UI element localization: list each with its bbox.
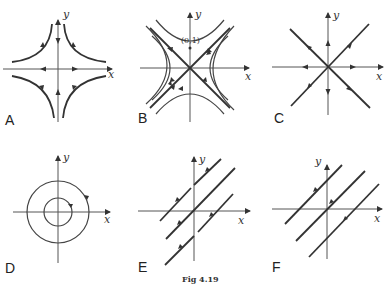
y-axis-label: y (194, 8, 202, 21)
y-axis-label: y (332, 9, 340, 22)
y-axis-label: y (62, 8, 70, 21)
panel-f: y x F (272, 155, 382, 275)
x-axis-label: x (374, 212, 381, 225)
trajectory (291, 24, 369, 106)
panel-a: y x A (3, 8, 115, 128)
trajectory (290, 29, 370, 108)
arrow-icon (40, 67, 46, 72)
trajectory (12, 24, 52, 62)
x-axis-label: x (238, 214, 245, 227)
panel-b: (0,1) y x B (138, 8, 252, 126)
x-axis-label: x (104, 213, 111, 226)
y-axis-label: y (62, 151, 70, 164)
panel-label: F (272, 259, 281, 275)
arrow-icon (178, 86, 183, 91)
point-marker (189, 47, 192, 50)
arrow-icon (350, 65, 356, 70)
trajectory (12, 76, 54, 118)
figure-caption: Fig 4.19 (182, 274, 219, 284)
arrow-icon (302, 65, 308, 70)
y-axis-label: y (198, 153, 206, 166)
trajectory (64, 24, 106, 62)
arrow-icon (56, 38, 61, 44)
x-axis-label: x (108, 68, 115, 81)
arrow-icon (167, 47, 173, 52)
arrow-icon (72, 67, 78, 72)
trajectory (146, 26, 167, 104)
trajectory (296, 171, 365, 241)
arrow-icon (40, 42, 45, 47)
trajectory (63, 76, 106, 118)
arrow-icon (68, 204, 73, 208)
panel-e: y x E Fig 4.19 (138, 153, 250, 284)
trajectory (165, 236, 194, 265)
x-axis-label: x (245, 70, 252, 83)
panel-label: A (5, 112, 15, 128)
panel-label: C (274, 110, 284, 126)
panel-c: y x C (272, 9, 383, 126)
panel-label: B (138, 110, 147, 126)
phase-portraits-figure: y x A (0,1) y x B (0, 0, 384, 286)
panel-d: y x D (5, 151, 111, 276)
point-label: (0,1) (181, 36, 200, 45)
panel-label: E (138, 259, 147, 275)
arrow-icon (326, 89, 331, 95)
trajectory (160, 188, 191, 221)
x-axis-label: x (376, 70, 383, 83)
y-axis-label: y (314, 155, 322, 168)
arrow-icon (326, 40, 331, 46)
panel-label: D (5, 260, 15, 276)
trajectory (285, 165, 342, 224)
arrow-icon (71, 42, 76, 47)
arrow-icon (56, 89, 61, 95)
